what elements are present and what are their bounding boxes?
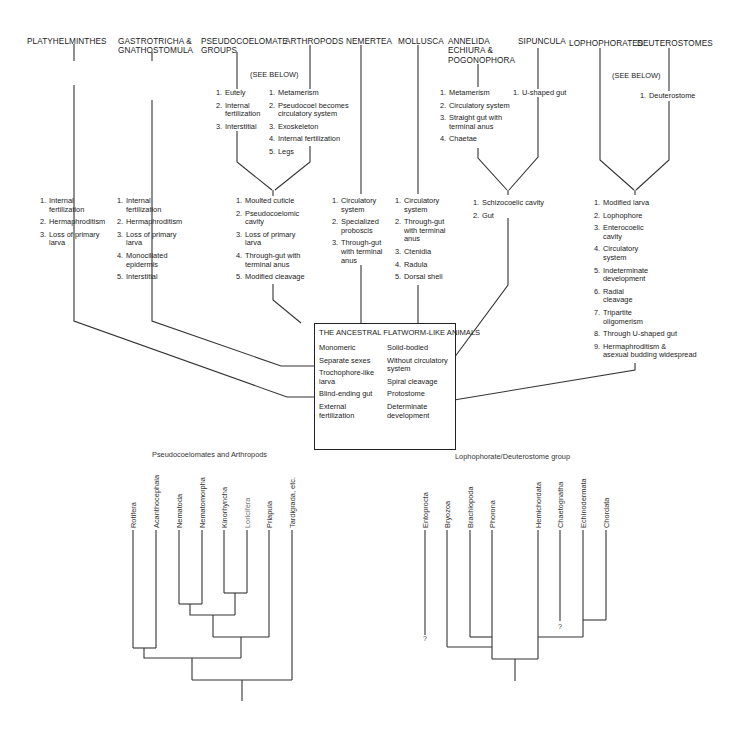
ancestral-flatworm-box: THE ANCESTRAL FLATWORM-LIKE ANIMALS Mono… (314, 323, 456, 450)
header-gastrotricha: GASTROTRICHA & GNATHOSTOMULA (118, 37, 193, 56)
uncertain-mark: ? (423, 635, 427, 642)
taxon-label: Acanthocephala (152, 475, 161, 528)
uncertain-mark: ? (558, 623, 562, 630)
header-sipuncula: SIPUNCULA (518, 37, 566, 46)
taxon-label: Priapula (265, 501, 274, 528)
phylogeny-diagram: PLATYHELMINTHES GASTROTRICHA & GNATHOSTO… (0, 0, 743, 737)
taxon-label: Nematoda (175, 494, 184, 528)
list-gastrotricha: 1.Internal fertilization 2.Hermaphroditi… (117, 197, 187, 286)
taxon-label: Nematomorpha (198, 477, 207, 528)
see-below-note: (SEE BELOW) (250, 71, 298, 80)
list-lopho-deutero-shared: 1.Modified larva 2.Lophophore 3.Enteroco… (594, 199, 704, 364)
list-nemertea: 1.Circulatory system 2.Specialized probo… (332, 197, 392, 269)
header-pseudocoelomate: PSEUDOCOELOMATE GROUPS (201, 37, 288, 56)
cladogram-left-caption: Pseudocoelomates and Arthropods (152, 450, 267, 459)
see-below-note: (SEE BELOW) (612, 72, 660, 81)
list-deuterostomes: 1.Deuterostome (640, 92, 710, 105)
list-annelid-sipuncula-shared: 1.Schizocoelic cavity 2.Gut (473, 199, 563, 224)
taxon-label: Echinodermata (579, 478, 588, 528)
ancestral-traits-left: Monomeric Separate sexes Trochophore-lik… (319, 344, 374, 424)
taxon-label: Chaetognatha (556, 482, 565, 528)
list-pseudo-arthro-shared: 1.Moulted cuticle 2.Pseudocoelomic cavit… (236, 197, 316, 286)
cladogram-right-caption: Lophophorate/Deuterostome group (455, 452, 570, 461)
header-mollusca: MOLLUSCA (398, 37, 444, 46)
header-arthropods: ARTHROPODS (285, 37, 344, 46)
list-arthropods: 1.Metamerism 2.Pseudocoel becomes circul… (269, 89, 369, 161)
taxon-label: Rotifera (129, 502, 138, 528)
taxon-label: Entoprocta (421, 492, 430, 528)
taxon-label: Loricifera (243, 498, 252, 528)
ancestral-traits-right: Solid-bodied Without circulatory system … (387, 344, 448, 424)
taxon-label: Hemichordata (534, 482, 543, 528)
header-nemertea: NEMERTEA (346, 37, 392, 46)
list-sipuncula: 1.U-shaped gut (513, 89, 583, 102)
taxon-label: Bryozoa (443, 501, 452, 528)
taxon-label: Kinorhyncha (220, 487, 229, 528)
taxon-label: Phorona (488, 500, 497, 528)
header-deuterostomes: DEUTEROSTOMES (637, 39, 713, 48)
taxon-label: Brachiopoda (466, 486, 475, 528)
ancestral-box-title: THE ANCESTRAL FLATWORM-LIKE ANIMALS (319, 329, 480, 338)
list-pseudocoelomate: 1.Eutely 2.Internal fertilization 3.Inte… (216, 89, 276, 135)
header-platyhelminthes: PLATYHELMINTHES (27, 37, 107, 46)
list-platyhelminthes: 1.Internal fertilization 2.Hermaphroditi… (40, 197, 110, 252)
taxon-label: Tardigrada, etc. (288, 477, 297, 528)
taxon-label: Chordata (602, 498, 611, 528)
header-annelida: ANNELIDA ECHIURA & POGONOPHORA (448, 37, 515, 65)
header-lophophorates: LOPHOPHORATES (569, 39, 643, 48)
list-mollusca: 1.Circulatory system 2.Through-gut with … (395, 197, 455, 286)
